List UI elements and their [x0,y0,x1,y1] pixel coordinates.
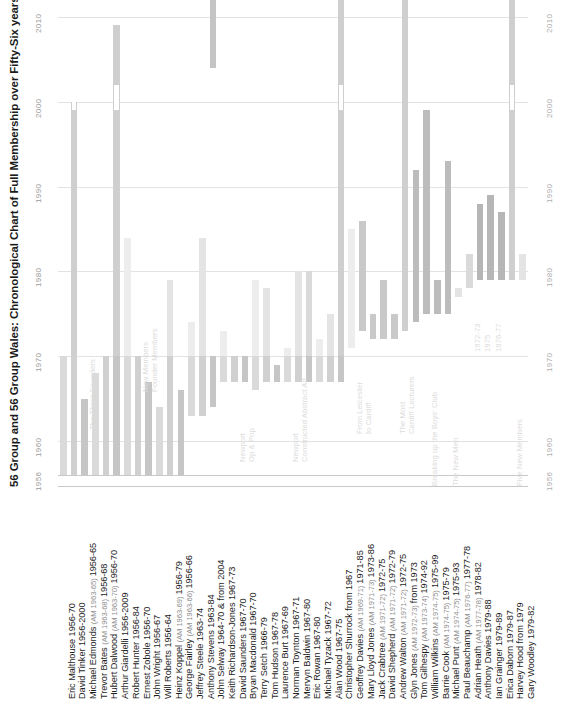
annotation-39: 1975 [484,335,493,352]
y-tick-1980: 1980 [545,268,554,287]
y-tick-1960: 1960 [545,438,554,457]
bar-break-5 [114,85,119,110]
plot-area: The Three FoundersNew MembersFounder Mem… [58,0,528,487]
member-name: George Fairley [184,636,194,699]
member-am-period: (AM 1971-72) [399,587,408,635]
member-years: 1956-65 [88,543,98,576]
y-tick-1990: 1990 [34,183,43,202]
bar-segment-lower [252,356,259,390]
bar-10 [167,280,174,475]
member-years: 1956-68 [99,564,109,597]
member-name: Barrie Cook [441,649,451,699]
member-am-period: (AM 1971-72) [388,583,397,631]
member-name: Michael Edmonds [88,624,98,699]
y-tick-2000: 2000 [545,98,554,117]
annotation-31: The MostCardiff Lecturers [399,376,416,434]
member-name: Adrian Heath [473,643,483,699]
bar-15 [220,331,227,382]
bar-segment-upper [402,0,409,331]
member-years: 1973-86 [366,544,376,577]
member-label-26: Christopher Shurrock from 1967 [344,570,354,699]
member-label-18: Terry Setch 1966-79 [259,617,269,699]
member-label-11: George Fairley (AM 1963-66) 1956-66 [184,555,194,699]
bar-segment-upper [338,0,345,356]
member-label-1: David Tinker 1956-2000 [77,603,87,699]
member-label-7: Ernest Zobole 1956-70 [142,607,152,699]
bar-segment-upper [199,238,206,357]
annotation-38: 1972-73 [474,323,483,352]
member-years: 1975-79 [441,567,451,600]
bar-break-1 [72,85,77,110]
bar-2 [81,399,88,475]
annotation-line: The Three Founders [89,359,98,430]
member-label-30: David Shepherd (AM 1971-72) 1972-79 [387,550,397,699]
y-tick-1980: 1980 [34,268,43,287]
member-am-period: (AM 1973-74) [420,594,429,642]
member-label-15: Keith Richardson-Jones 1967-73 [227,567,237,699]
member-years: 1977-78 [462,546,472,579]
bar-segment-lower [327,356,334,381]
member-years: 1975-93 [451,563,461,596]
member-am-period: (AM 1963-66) [185,589,194,637]
bar-40 [487,195,494,280]
member-years: 1972-75 [377,559,387,592]
bar-13 [199,238,206,416]
member-label-6: Robert Hunter 1956-84 [131,606,141,699]
bar-segment-upper [263,288,270,356]
member-am-period: (AM 1963-65) [89,576,98,624]
y-tick-1970: 1970 [34,353,43,372]
bar-27 [348,229,355,348]
bar-8 [145,382,152,475]
annotation-line: Constructed Abstract Art [301,378,310,462]
member-label-34: William Wilkins (AM 1974-75) 1975-99 [430,555,440,699]
annotation-line: Op & Pop [247,428,256,462]
member-label-3: Trevor Bates (AM 1963-68) 1956-68 [99,564,109,699]
member-am-period: (AM 1972-73) [410,603,419,651]
annotation-line: Newport [239,428,248,462]
member-label-39: Anthony Davies 1979-88 [483,599,493,699]
member-am-period: (AM 1976-77) [463,579,472,627]
bar-32 [402,0,409,331]
bar-29 [370,314,377,339]
member-label-21: Norman Toynton 1967-71 [291,597,301,699]
bar-14-second-span [210,0,217,68]
member-label-28: Mary Lloyd Jones (AM 1971-73) 1973-86 [366,544,376,699]
member-label-40: Ian Grainger 1979-89 [494,613,504,699]
bar-segment-lower [188,356,195,415]
bar-12 [188,322,195,415]
bar-segment-upper [380,280,387,339]
member-am-period: (AM 1963-69) [175,595,184,643]
member-am-period: (AM 1971-73) [367,577,376,625]
bar-17 [242,356,249,381]
member-years: 1975-99 [430,555,440,588]
bar-segment-upper [220,331,227,356]
bar-segment-upper [487,195,494,280]
member-label-35: Barrie Cook (AM 1974-75) 1975-79 [441,567,451,699]
member-label-20: Laurence Burt 1967-69 [280,606,290,699]
bar-segment-upper [466,254,473,288]
member-years: 1971-85 [355,550,365,583]
member-name: Hubert Dalwood [109,631,119,699]
member-label-4: Hubert Dalwood (AM 1963-70) 1956-70 [109,550,119,699]
bar-segment-upper [391,314,398,339]
bar-38 [466,254,473,288]
bar-segment-upper [284,348,291,356]
bar-segment-lower [71,356,78,475]
bar-0 [60,356,67,475]
member-label-42: Harvey Hood from 1979 [515,603,525,700]
member-label-8: John Wright 1956-67 [152,615,162,699]
member-label-19: Tom Hudson 1967-78 [270,612,280,699]
member-am-period: (AM 1974-75) [442,601,451,649]
member-label-24: Michael Tyzack 1967-72 [323,601,333,699]
bar-segment-upper [306,271,313,356]
annotation-27: From Leicesterto Cardiff [356,382,373,434]
member-label-14: John Selway 1964-70 & from 2004 [216,560,226,699]
gridline-1990 [58,187,528,188]
bar-break-42 [510,85,515,110]
member-label-12: Jeffrey Steele 1963-74 [195,608,205,699]
member-years: 1956-79 [174,561,184,594]
bar-segment-upper [71,102,78,356]
bar-segment-lower [242,356,249,381]
bar-43 [519,254,526,279]
bar-segment-upper [370,314,377,339]
